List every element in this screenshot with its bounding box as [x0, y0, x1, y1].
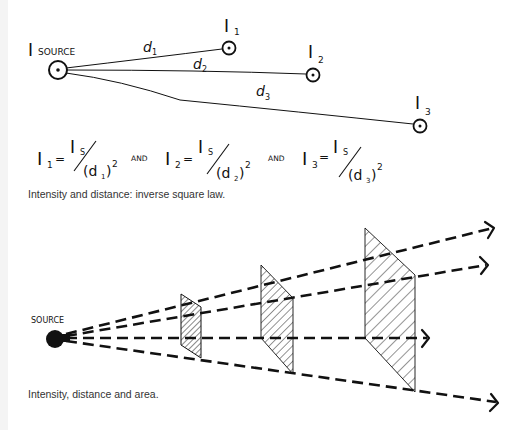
distance-d3-sub: 3 [265, 93, 270, 102]
point-i1-sub: 1 [234, 27, 240, 37]
svg-text:1: 1 [101, 173, 105, 181]
distance-d2-sub: 2 [202, 65, 207, 74]
and-connector-2: AND [268, 154, 285, 163]
arrow-head-upper-icon [480, 257, 488, 274]
caption-inverse-square: Intensity and distance: inverse square l… [28, 188, 225, 200]
svg-text:I: I [165, 148, 170, 169]
source-point-icon [49, 61, 67, 79]
point-i2-sub: 2 [318, 55, 324, 65]
intensity-area-diagram: SOURCE [31, 222, 498, 411]
formula-row: I 1 = I S (d 1 ) 2 AND I 2 = I S (d 2 ) … [37, 137, 383, 185]
point-i1-icon [223, 42, 236, 55]
svg-text:3: 3 [312, 160, 318, 170]
source-label: SOURCE [31, 316, 64, 325]
svg-text:2: 2 [112, 159, 118, 169]
svg-text:2: 2 [377, 162, 383, 172]
svg-text:=: = [319, 150, 329, 164]
point-i1-label: I [224, 16, 229, 36]
svg-text:2: 2 [245, 160, 251, 170]
svg-text:): ) [371, 167, 376, 183]
distance-d3-label: d [256, 83, 265, 99]
svg-text:I: I [302, 148, 307, 169]
distance-d2-label: d [193, 56, 202, 72]
distance-d1-label: d [143, 39, 152, 55]
svg-text:=: = [55, 152, 65, 166]
point-i3-sub: 3 [425, 107, 431, 117]
line-d3 [66, 73, 413, 124]
svg-text:1: 1 [47, 160, 53, 170]
diagram-canvas: I SOURCE I 1 I 2 I 3 d 1 d 2 d 3 [0, 0, 524, 430]
svg-text:S: S [208, 148, 213, 157]
area-patch-large [365, 228, 415, 392]
point-i3-icon [414, 120, 427, 133]
formula-i1: I 1 = I S (d 1 ) 2 [37, 137, 118, 181]
point-i2-label: I [308, 42, 313, 62]
svg-text:(d: (d [83, 163, 97, 179]
svg-text:(d: (d [348, 167, 362, 183]
formula-i3: I 3 = I S (d 3 ) 2 [302, 137, 383, 185]
source-label-sub: SOURCE [38, 47, 75, 57]
svg-text:(d: (d [216, 165, 230, 181]
svg-text:I: I [333, 137, 338, 157]
formula-i2: I 2 = I S (d 2 ) 2 [165, 137, 251, 183]
line-d2 [66, 70, 306, 74]
svg-text:I: I [198, 137, 203, 157]
point-i3-label: I [415, 93, 420, 113]
point-i2-icon [307, 69, 320, 82]
svg-text:2: 2 [175, 160, 181, 170]
distance-d1-sub: 1 [152, 48, 157, 57]
svg-text:S: S [80, 148, 85, 157]
caption-intensity-area: Intensity, distance and area. [28, 388, 159, 400]
svg-text:): ) [239, 165, 244, 181]
svg-text:2: 2 [234, 175, 238, 183]
svg-text:3: 3 [366, 177, 370, 185]
svg-text:I: I [70, 137, 75, 157]
svg-text:I: I [37, 148, 42, 169]
svg-text:): ) [106, 163, 111, 179]
svg-text:S: S [343, 148, 348, 157]
and-connector-1: AND [131, 154, 148, 163]
inverse-square-diagram: I SOURCE I 1 I 2 I 3 d 1 d 2 d 3 [28, 16, 431, 133]
area-patch-medium [261, 265, 293, 374]
source-label-i: I [28, 40, 33, 60]
svg-text:=: = [183, 152, 193, 166]
